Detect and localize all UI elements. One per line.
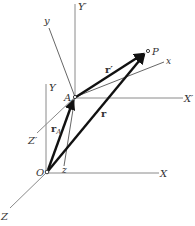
axis-x-rot bbox=[75, 62, 164, 97]
label-O: O bbox=[36, 167, 44, 178]
label-r-A: rA bbox=[51, 123, 61, 136]
label-Y-prime: Y′ bbox=[78, 1, 88, 12]
point-A-marker bbox=[73, 95, 76, 98]
label-Y: Y bbox=[49, 82, 57, 93]
label-Z-prime: Z′ bbox=[27, 135, 38, 146]
label-A: A bbox=[63, 92, 71, 103]
label-Z: Z bbox=[0, 211, 9, 222]
label-P: P bbox=[151, 46, 159, 57]
vectors bbox=[48, 54, 144, 171]
point-O-marker bbox=[45, 170, 49, 174]
label-z-rot: z bbox=[61, 165, 67, 175]
label-y-rot: y bbox=[43, 15, 50, 26]
axis-Z bbox=[10, 173, 46, 208]
label-X: X bbox=[159, 168, 168, 179]
label-r: r bbox=[101, 108, 107, 119]
vector-r-prime bbox=[76, 54, 143, 97]
diagram-canvas: Y X Z Y′ X′ Z′ y x z O A P rA r r′ bbox=[0, 0, 195, 226]
vector-r bbox=[48, 55, 144, 171]
label-r-prime: r′ bbox=[105, 64, 113, 75]
label-x-rot: x bbox=[166, 56, 171, 66]
point-P-marker bbox=[146, 49, 149, 52]
fixed-axes bbox=[10, 84, 159, 208]
label-X-prime: X′ bbox=[183, 93, 194, 104]
